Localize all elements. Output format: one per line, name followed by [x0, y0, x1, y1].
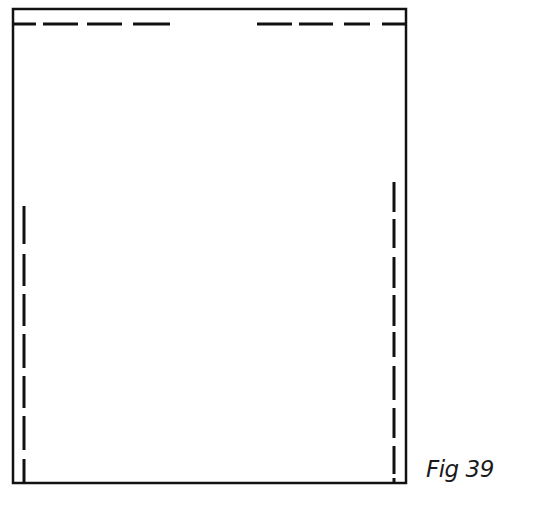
outer-outline — [13, 9, 406, 483]
figure-caption: Fig 39 — [426, 456, 494, 482]
pattern-diagram — [0, 0, 544, 526]
